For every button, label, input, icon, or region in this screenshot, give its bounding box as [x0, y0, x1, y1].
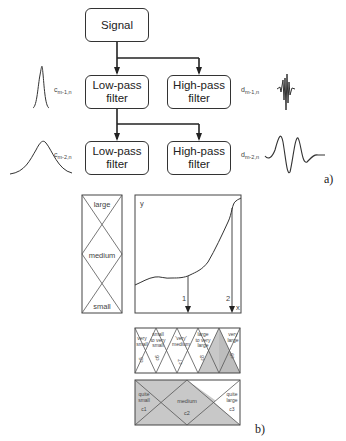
fine-segment-c7: 'very' medium c7 — [170, 336, 192, 365]
segment-label: small to very small — [148, 332, 168, 349]
segment-id: c5 — [139, 352, 145, 368]
segment-label: quite large — [224, 392, 240, 403]
coarse-segment-c3: quite large c3 — [224, 392, 240, 413]
panel-label-b: b) — [255, 422, 265, 437]
segment-id: c8 — [200, 346, 206, 368]
scale-label-small: small — [82, 302, 122, 311]
scale-label-medium: medium — [82, 251, 122, 260]
segment-id: c3 — [224, 407, 240, 413]
marker-2-label: 2 — [226, 294, 230, 303]
coarse-segment-c1: quite small c1 — [136, 392, 152, 413]
diagram-canvas: Signal Low-pass filter High-pass filter … — [0, 0, 346, 441]
segment-id: c6 — [155, 347, 161, 367]
y-axis-label: y — [140, 199, 144, 208]
segment-id: c7 — [178, 351, 184, 373]
segment-label: 'very' medium — [170, 336, 192, 347]
scale-label-large: large — [82, 200, 122, 209]
fine-segment-c9: very large c9 — [225, 332, 241, 359]
segment-label: quite small — [136, 392, 152, 403]
segment-label: very large — [225, 332, 241, 343]
marker-1-label: 1 — [182, 294, 186, 303]
fuzzy-scale-graphics — [0, 0, 346, 441]
x-axis-label: x — [236, 303, 240, 312]
fine-segment-c6: small to very small c6 — [148, 332, 168, 360]
segment-id: c9 — [230, 348, 236, 364]
segment-label: medium — [172, 398, 202, 404]
segment-id: c1 — [136, 407, 152, 413]
fine-segment-c8: large to very large c8 — [192, 332, 214, 360]
coarse-segment-c2: medium c2 — [172, 398, 202, 416]
segment-id: c2 — [172, 410, 202, 416]
